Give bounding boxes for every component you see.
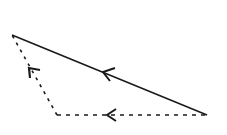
vector-triangle-diagram — [0, 0, 227, 135]
arrowhead-diagonal-icon — [29, 68, 40, 78]
dashed-diagonal-line — [12, 35, 57, 115]
solid-vector-line — [12, 35, 207, 115]
